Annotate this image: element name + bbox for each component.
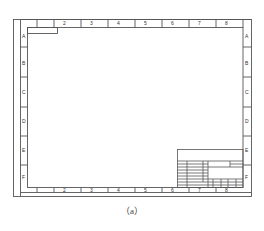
- figure-caption: （a）: [0, 204, 264, 217]
- column-label: 2: [63, 187, 66, 193]
- column-label: 3: [90, 187, 93, 193]
- row-labels-left: A B C D E F: [21, 0, 27, 231]
- column-label: 7: [198, 20, 201, 26]
- column-label: 8: [225, 20, 228, 26]
- column-label: 3: [90, 20, 93, 26]
- column-labels-bottom: 2 3 4 5 6 7 8: [0, 187, 264, 193]
- outer-border: [14, 20, 252, 197]
- row-label: D: [22, 118, 26, 124]
- row-label: B: [22, 60, 25, 66]
- inner-border: [28, 28, 244, 188]
- column-label: 8: [225, 187, 228, 193]
- row-label: A: [22, 33, 25, 39]
- column-label: 6: [171, 20, 174, 26]
- column-labels-top: 2 3 4 5 6 7 8: [0, 19, 264, 27]
- column-label: 5: [144, 187, 147, 193]
- row-label: C: [245, 89, 249, 95]
- row-label: F: [22, 174, 25, 180]
- row-labels-right: A B C D E F: [244, 0, 251, 231]
- row-label: F: [245, 174, 248, 180]
- column-ticks: [37, 20, 216, 193]
- row-label: B: [245, 60, 248, 66]
- row-ticks: [21, 47, 252, 165]
- row-label: E: [22, 147, 25, 153]
- title-block: [178, 150, 244, 188]
- row-label: D: [245, 118, 249, 124]
- row-label: E: [245, 147, 248, 153]
- column-label: 6: [171, 187, 174, 193]
- column-label: 4: [117, 187, 120, 193]
- column-label: 2: [63, 20, 66, 26]
- row-label: C: [22, 89, 26, 95]
- reference-box: [28, 28, 58, 34]
- column-label: 4: [117, 20, 120, 26]
- column-label: 5: [144, 20, 147, 26]
- column-label: 7: [198, 187, 201, 193]
- row-label: A: [245, 33, 248, 39]
- drawing-frame: [0, 0, 264, 231]
